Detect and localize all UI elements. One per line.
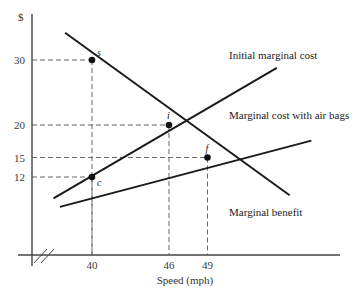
point-i bbox=[166, 122, 173, 129]
x-tick-label: 46 bbox=[163, 259, 175, 271]
point-label: f bbox=[205, 143, 209, 154]
point-label: c bbox=[97, 177, 102, 188]
point-s bbox=[89, 57, 96, 64]
axis-break-mark bbox=[41, 249, 54, 263]
x-tick-label: 49 bbox=[202, 259, 214, 271]
y-tick-label: 15 bbox=[14, 152, 26, 164]
x-axis-label: Speed (mph) bbox=[157, 274, 214, 287]
y-tick-label: 20 bbox=[14, 119, 26, 131]
point-c bbox=[89, 174, 96, 181]
chart: $ Speed (mph) 30201512404649 sifc Initia… bbox=[0, 0, 355, 288]
curve-label: Marginal benefit bbox=[229, 206, 302, 218]
y-tick-label: 30 bbox=[14, 54, 26, 66]
point-f bbox=[204, 154, 211, 161]
x-tick-label: 40 bbox=[87, 259, 99, 271]
curve-label: Marginal cost with air bags bbox=[229, 109, 349, 121]
y-tick-label: 12 bbox=[14, 171, 25, 183]
y-axis-label: $ bbox=[18, 11, 24, 23]
point-label: i bbox=[167, 110, 170, 121]
axis-break-mark bbox=[34, 249, 47, 263]
curve-labels: Initial marginal costMarginal cost with … bbox=[229, 49, 349, 218]
curve-label: Initial marginal cost bbox=[229, 49, 317, 61]
guide-lines bbox=[32, 60, 207, 255]
point-label: s bbox=[97, 47, 101, 58]
